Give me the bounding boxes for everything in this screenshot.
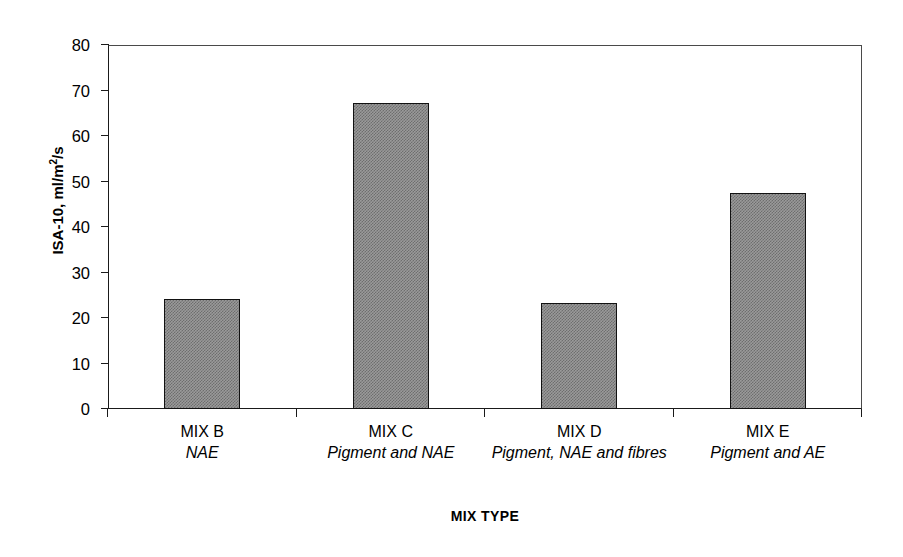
y-axis-tick-label: 10: [34, 356, 90, 373]
y-axis-tick-label: 20: [34, 310, 90, 327]
y-axis-tick-label: 80: [34, 37, 90, 54]
category-description: NAE: [108, 442, 297, 463]
category-description: Pigment and NAE: [297, 442, 486, 463]
x-axis-category-label: MIX CPigment and NAE: [297, 421, 486, 463]
category-name: MIX D: [485, 421, 674, 442]
y-axis-tick-label: 30: [34, 265, 90, 282]
y-axis-tick-label: 40: [34, 219, 90, 236]
category-description: Pigment and AE: [674, 442, 863, 463]
x-axis-category-label: MIX BNAE: [108, 421, 297, 463]
y-axis-title-superscript: 2: [48, 159, 59, 165]
bar: [541, 303, 617, 409]
y-axis-tick-mark: [101, 181, 109, 182]
x-axis-tick-mark: [296, 409, 297, 417]
y-axis-tick-mark: [101, 226, 109, 227]
bar: [164, 299, 240, 409]
category-name: MIX E: [674, 421, 863, 442]
y-axis-title: ISA-10, ml/m2/s: [49, 81, 66, 321]
y-axis-title-suffix: /s: [49, 146, 66, 159]
y-axis-tick-label: 0: [34, 401, 90, 418]
y-axis-tick-mark: [101, 317, 109, 318]
bar: [730, 193, 806, 409]
x-axis-category-label: MIX DPigment, NAE and fibres: [485, 421, 674, 463]
x-axis-tick-mark: [107, 409, 108, 417]
y-axis-tick-mark: [101, 44, 109, 45]
y-axis-tick-label: 60: [34, 128, 90, 145]
y-axis-tick-label: 50: [34, 174, 90, 191]
y-axis-tick-mark: [101, 90, 109, 91]
y-axis-tick-mark: [101, 272, 109, 273]
category-name: MIX C: [297, 421, 486, 442]
x-axis-tick-mark: [673, 409, 674, 417]
x-axis-tick-mark: [861, 409, 862, 417]
bar: [353, 103, 429, 409]
y-axis-tick-mark: [101, 135, 109, 136]
x-axis-category-label: MIX EPigment and AE: [674, 421, 863, 463]
bar-chart: ISA-10, ml/m2/s 80706050403020100 MIX BN…: [0, 0, 903, 557]
y-axis-tick-mark: [101, 363, 109, 364]
category-description: Pigment, NAE and fibres: [485, 442, 674, 463]
x-axis-tick-mark: [484, 409, 485, 417]
y-axis-tick-label: 70: [34, 83, 90, 100]
x-axis-title: MIX TYPE: [108, 508, 862, 524]
category-name: MIX B: [108, 421, 297, 442]
